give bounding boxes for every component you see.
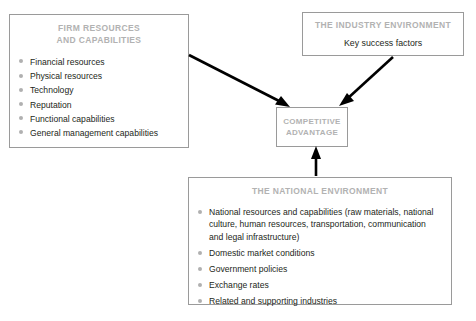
list-item-label: Related and supporting industries bbox=[209, 296, 337, 306]
competitive-advantage-box: COMPETITIVE ADVANTAGE bbox=[276, 107, 348, 147]
national-to-advantage-arrow bbox=[311, 146, 321, 176]
list-item: Functional capabilities bbox=[19, 112, 188, 126]
industry-environment-text: Key success factors bbox=[303, 37, 463, 49]
bullet-icon bbox=[19, 116, 23, 120]
industry-environment-box: THE INDUSTRY ENVIRONMENT Key success fac… bbox=[302, 12, 464, 56]
list-item: Exchange rates bbox=[198, 279, 442, 292]
bullet-icon bbox=[19, 88, 23, 92]
firm-resources-box: FIRM RESOURCES AND CAPABILITIES Financia… bbox=[9, 14, 189, 148]
list-item: Physical resources bbox=[19, 69, 188, 83]
list-item-label: Physical resources bbox=[30, 71, 102, 81]
list-item-label: General management capabilities bbox=[30, 128, 158, 138]
bullet-icon bbox=[19, 102, 23, 106]
firm-resources-title-line1: FIRM RESOURCES bbox=[10, 23, 188, 35]
bullet-icon bbox=[198, 299, 202, 303]
list-item-label: Financial resources bbox=[30, 57, 105, 67]
list-item: General management capabilities bbox=[19, 126, 188, 140]
list-item-label: Reputation bbox=[30, 100, 72, 110]
list-item: Domestic market conditions bbox=[198, 247, 442, 260]
bullet-icon bbox=[19, 59, 23, 63]
firm-resources-title: FIRM RESOURCES AND CAPABILITIES bbox=[10, 23, 188, 46]
list-item-label: National resources and capabilities (raw… bbox=[209, 207, 434, 242]
list-item-label: Technology bbox=[30, 85, 73, 95]
bullet-icon bbox=[19, 130, 23, 134]
list-item: Government policies bbox=[198, 263, 442, 276]
bullet-icon bbox=[198, 210, 202, 214]
bullet-icon bbox=[198, 283, 202, 287]
national-environment-box: THE NATIONAL ENVIRONMENT National resour… bbox=[188, 177, 452, 305]
bullet-icon bbox=[198, 267, 202, 271]
list-item-label: Functional capabilities bbox=[30, 114, 115, 124]
firm-resources-list: Financial resources Physical resources T… bbox=[19, 55, 188, 140]
list-item: Reputation bbox=[19, 98, 188, 112]
list-item-label: Exchange rates bbox=[209, 280, 269, 290]
list-item: National resources and capabilities (raw… bbox=[198, 206, 442, 244]
list-item: Technology bbox=[19, 83, 188, 97]
list-item: Related and supporting industries bbox=[198, 295, 442, 308]
list-item: Financial resources bbox=[19, 55, 188, 69]
industry-environment-title: THE INDUSTRY ENVIRONMENT bbox=[303, 20, 463, 32]
bullet-icon bbox=[19, 74, 23, 78]
firm-resources-title-line2: AND CAPABILITIES bbox=[10, 35, 188, 47]
competitive-advantage-title-line2: ADVANTAGE bbox=[283, 127, 341, 138]
competitive-advantage-title: COMPETITIVE ADVANTAGE bbox=[283, 116, 341, 138]
diagram-canvas: FIRM RESOURCES AND CAPABILITIES Financia… bbox=[0, 0, 476, 321]
list-item-label: Government policies bbox=[209, 264, 287, 274]
industry-to-advantage-arrow bbox=[339, 57, 393, 106]
national-environment-title: THE NATIONAL ENVIRONMENT bbox=[189, 186, 451, 198]
national-environment-list: National resources and capabilities (raw… bbox=[198, 206, 442, 308]
bullet-icon bbox=[198, 251, 202, 255]
list-item-label: Domestic market conditions bbox=[209, 248, 315, 258]
firm-to-advantage-arrow bbox=[189, 55, 290, 107]
competitive-advantage-title-line1: COMPETITIVE bbox=[283, 116, 341, 127]
